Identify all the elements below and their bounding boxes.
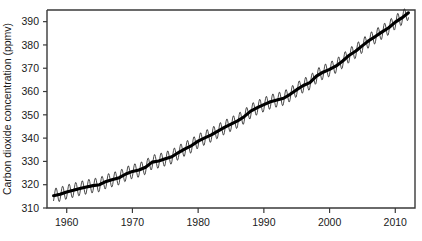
co2-concentration-chart: 310320330340350360370380390 196019701980… [0,0,422,241]
x-tick-label: 2010 [384,216,408,228]
y-tick-label: 380 [21,39,39,51]
y-axis-title: Carbon dioxide concentration (ppmv) [1,23,13,195]
x-tick-label: 1980 [186,216,210,228]
y-tick-label: 370 [21,62,39,74]
y-tick-label: 350 [21,109,39,121]
chart-page: 310320330340350360370380390 196019701980… [0,0,422,241]
x-tick-label: 1970 [121,216,145,228]
plot-frame [47,10,415,208]
y-tick-label: 360 [21,85,39,97]
y-tick-label: 390 [21,15,39,27]
x-axis-ticks: 196019701980199020002010 [55,208,407,228]
monthly-co2-line [54,9,409,202]
x-tick-label: 1990 [252,216,276,228]
data-series-group [54,9,409,202]
smoothed-trend-line [54,13,409,196]
x-tick-label: 1960 [55,216,79,228]
y-tick-label: 320 [21,178,39,190]
y-tick-label: 340 [21,132,39,144]
x-tick-label: 2000 [318,216,342,228]
y-tick-label: 310 [21,202,39,214]
y-tick-label: 330 [21,155,39,167]
y-axis-ticks: 310320330340350360370380390 [21,15,47,213]
axis-frame [47,10,415,208]
